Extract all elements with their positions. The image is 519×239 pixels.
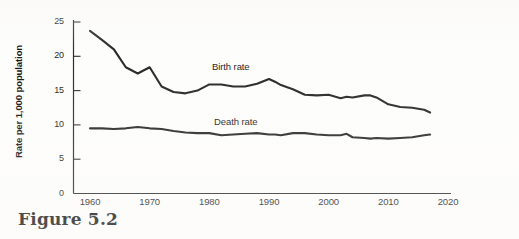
death-rate-series-label: Death rate (214, 116, 257, 127)
y-tick-label: 10 (42, 120, 64, 129)
y-tick-label: 20 (42, 51, 64, 60)
y-tick-label: 25 (42, 17, 64, 26)
chart-series-group (90, 31, 430, 139)
figure-container: 0510152025 1960197019801990200020102020 … (0, 0, 519, 239)
x-tick-label: 1970 (130, 197, 170, 207)
y-axis-title: Rate per 1,000 population (13, 32, 24, 172)
figure-caption: Figure 5.2 (18, 209, 118, 229)
x-tick-label: 2000 (309, 197, 349, 207)
x-tick-label: 2020 (428, 197, 468, 207)
line-chart-svg (0, 0, 519, 205)
x-tick-label: 1960 (70, 197, 110, 207)
y-tick-label: 5 (42, 154, 64, 163)
chart-plot-area: 0510152025 1960197019801990200020102020 … (0, 0, 519, 205)
x-tick-label: 1980 (189, 197, 229, 207)
y-tick-label: 15 (42, 86, 64, 95)
death-rate-line (90, 127, 430, 139)
birth-rate-line (90, 31, 430, 113)
y-axis-ticks (74, 22, 81, 159)
y-tick-label: 0 (42, 189, 64, 198)
x-tick-label: 2010 (368, 197, 408, 207)
birth-rate-series-label: Birth rate (212, 61, 250, 72)
x-tick-label: 1990 (249, 197, 289, 207)
